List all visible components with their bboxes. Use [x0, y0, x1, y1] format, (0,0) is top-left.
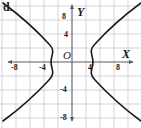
y-axis-label: Y	[77, 6, 84, 18]
part-label: d.	[3, 1, 13, 13]
origin-label: O	[63, 50, 71, 61]
y-tick-8: 8	[62, 13, 66, 21]
y-tick-neg4: -4	[60, 86, 67, 94]
hyperbola-figure: d. Y X O 8 4 -4 -8 -8 -4 4 8	[0, 0, 141, 128]
x-tick-4: 4	[88, 64, 92, 72]
y-tick-4: 4	[64, 31, 68, 39]
x-axis-label: X	[122, 48, 130, 60]
x-tick-neg8: -8	[11, 64, 18, 72]
y-tick-neg8: -8	[60, 114, 67, 122]
x-tick-neg4: -4	[39, 64, 46, 72]
x-tick-8: 8	[116, 64, 120, 72]
